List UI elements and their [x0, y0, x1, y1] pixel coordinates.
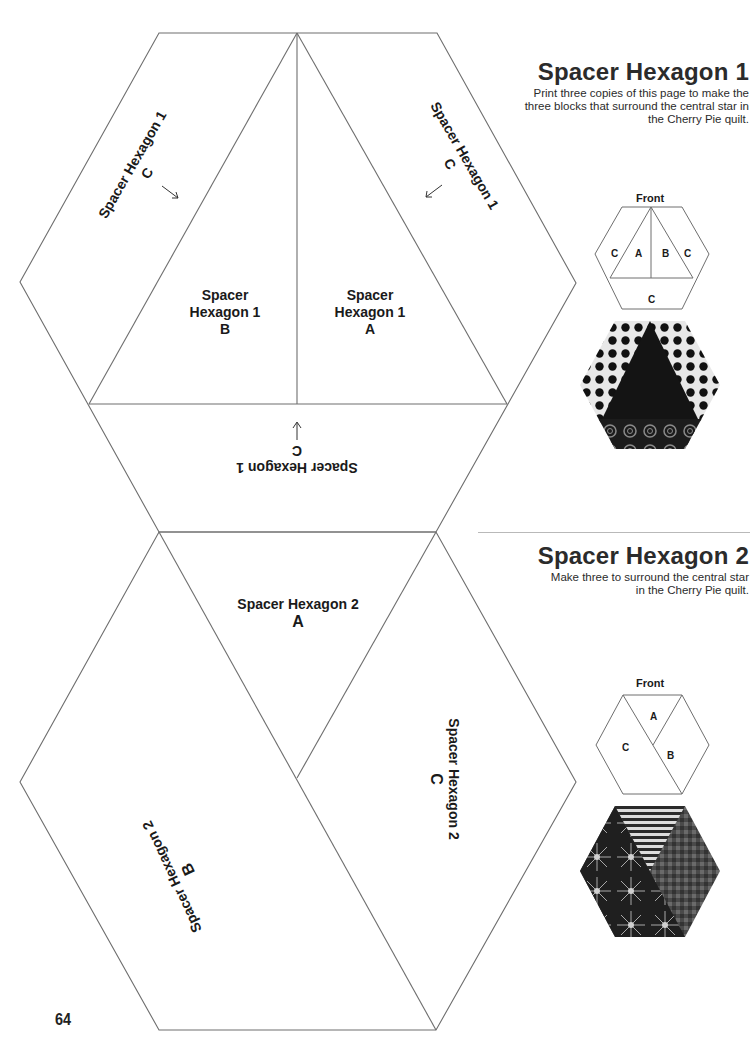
fabric-photo-hex-1 — [580, 321, 720, 449]
grain-arrow-icon — [162, 186, 178, 198]
label-line: Spacer Hexagon 1 — [227, 459, 367, 476]
label-line: Hexagon 1 — [180, 304, 270, 321]
label-line: Spacer Hexagon 2 — [218, 596, 378, 613]
piece-label-hex2-c: Spacer Hexagon 2 C — [428, 709, 462, 849]
label-line: Spacer — [325, 287, 415, 304]
label-letter: C — [227, 442, 367, 459]
piece-label-hex1-c-bottom: Spacer Hexagon 1 C — [227, 442, 367, 476]
piece-label-hex2-a: Spacer Hexagon 2 A — [218, 596, 378, 630]
label-letter: B — [180, 321, 270, 338]
front-label-1: Front — [620, 192, 680, 204]
piece-label-hex1-a: Spacer Hexagon 1 A — [325, 287, 415, 338]
page-number: 64 — [55, 1010, 71, 1030]
label-letter: C — [428, 709, 445, 849]
diagram-label: B — [667, 750, 674, 761]
diagram-label: B — [662, 248, 669, 259]
label-letter: A — [325, 321, 415, 338]
section-1-title: Spacer Hexagon 1 — [538, 58, 749, 86]
diagram-label: C — [611, 248, 618, 259]
section-2-description: Make three to surround the central star … — [549, 571, 749, 597]
section-divider — [478, 532, 750, 533]
label-line: Spacer — [180, 287, 270, 304]
label-line: Spacer Hexagon 2 — [445, 709, 462, 849]
label-letter: A — [218, 613, 378, 630]
diagram-label: A — [650, 711, 657, 722]
section-1-description: Print three copies of this page to make … — [519, 87, 749, 126]
grain-arrow-icon — [426, 185, 442, 197]
section-2-title: Spacer Hexagon 2 — [538, 542, 749, 570]
piece-label-hex1-b: Spacer Hexagon 1 B — [180, 287, 270, 338]
diagram-label: C — [622, 742, 629, 753]
diagram-label: C — [648, 294, 655, 305]
diagram-label: A — [635, 248, 642, 259]
front-label-2: Front — [620, 677, 680, 689]
diagram-label: C — [684, 248, 691, 259]
fabric-photo-hex-2 — [580, 806, 720, 937]
hexagon-2-seam — [297, 532, 436, 778]
label-line: Hexagon 1 — [325, 304, 415, 321]
front-diagram-hex-2 — [595, 694, 710, 796]
